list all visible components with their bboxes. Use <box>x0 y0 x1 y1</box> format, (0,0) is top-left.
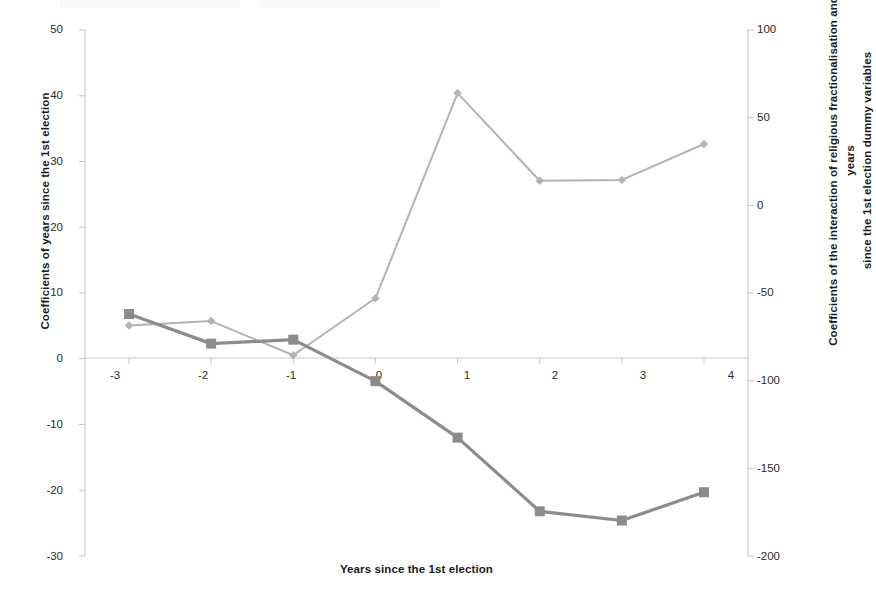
data-point-marker <box>125 321 133 329</box>
series-line <box>129 93 704 355</box>
data-point-marker <box>617 515 627 525</box>
data-point-marker <box>535 506 545 516</box>
data-point-marker <box>699 487 709 497</box>
data-point-marker <box>700 140 708 148</box>
y-axis-right-ticks <box>748 30 754 556</box>
data-point-marker <box>124 309 134 319</box>
data-point-marker <box>206 339 216 349</box>
series-layer <box>124 89 709 526</box>
data-point-marker <box>288 335 298 345</box>
axes-layer <box>79 30 754 556</box>
data-point-marker <box>453 433 463 443</box>
y-axis-right-title-line2: since the 1st election dummy variables <box>859 0 876 361</box>
series-1-diamond <box>125 89 708 360</box>
data-point-marker <box>618 176 626 184</box>
data-point-marker <box>207 317 215 325</box>
series-2-square <box>124 309 709 525</box>
data-point-marker <box>370 376 380 386</box>
x-axis-ticks <box>129 358 704 364</box>
y-axis-left-ticks <box>79 30 85 556</box>
